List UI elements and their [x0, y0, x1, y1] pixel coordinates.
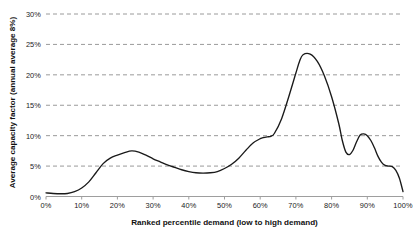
y-tick-label: 10% — [16, 131, 41, 140]
x-axis-title: Ranked percentile demand (low to high de… — [46, 218, 403, 227]
x-tick-label: 70% — [288, 201, 303, 210]
x-tick-label: 100% — [393, 201, 412, 210]
y-axis-title: Average capacity factor (annual average … — [8, 3, 17, 203]
x-tick-label: 20% — [110, 201, 125, 210]
capacity-factor-line-chart: 0%5%10%15%20%25%30% 0%10%20%30%40%50%60%… — [0, 0, 419, 236]
x-tick-label: 90% — [360, 201, 375, 210]
y-tick-label: 0% — [16, 192, 41, 201]
x-tick-label: 30% — [146, 201, 161, 210]
x-tick-label: 50% — [217, 201, 232, 210]
chart-plot-area — [0, 0, 419, 236]
x-tick-label: 80% — [324, 201, 339, 210]
y-tick-label: 30% — [16, 10, 41, 19]
x-tick-label: 60% — [253, 201, 268, 210]
x-tick-label: 0% — [41, 201, 52, 210]
y-tick-label: 25% — [16, 40, 41, 49]
y-tick-label: 5% — [16, 162, 41, 171]
y-tick-label: 15% — [16, 101, 41, 110]
y-tick-label: 20% — [16, 70, 41, 79]
x-tick-label: 40% — [181, 201, 196, 210]
x-tick-label: 10% — [74, 201, 89, 210]
gridlines-group — [46, 14, 403, 166]
